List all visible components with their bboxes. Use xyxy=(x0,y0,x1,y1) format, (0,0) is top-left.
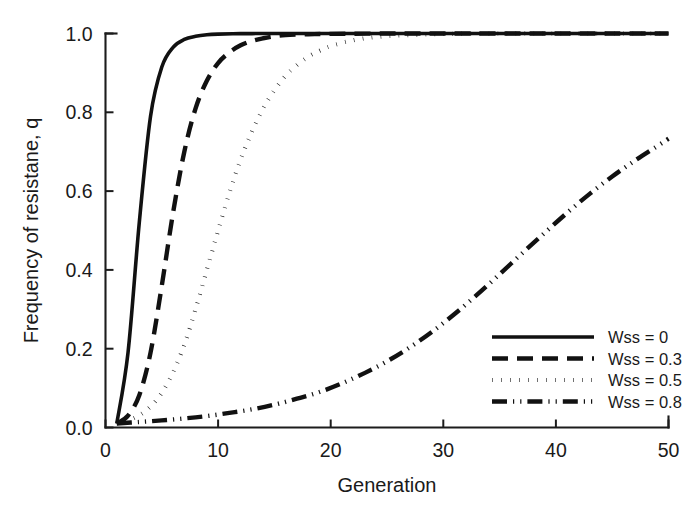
series-line-1 xyxy=(117,33,669,423)
legend-label-3: Wss = 0.8 xyxy=(608,393,682,411)
axes-group xyxy=(106,34,669,428)
series-line-0 xyxy=(117,33,669,423)
y-axis-title: Frequency of resistane, q xyxy=(20,118,42,344)
x-tick-label: 40 xyxy=(545,439,567,461)
x-axis-title: Generation xyxy=(338,474,437,496)
legend-label-1: Wss = 0.3 xyxy=(608,350,682,368)
x-axis-tick-labels: 01020304050 xyxy=(100,439,679,461)
chart-legend: Wss = 0Wss = 0.3Wss = 0.5Wss = 0.8 xyxy=(492,328,682,411)
series-line-2 xyxy=(117,33,669,423)
legend-label-2: Wss = 0.5 xyxy=(608,371,682,389)
x-tick-label: 30 xyxy=(432,439,454,461)
x-tick-label: 20 xyxy=(320,439,342,461)
plot-canvas: 0.00.20.40.60.81.0 01020304050 Generatio… xyxy=(0,0,684,505)
legend-label-0: Wss = 0 xyxy=(608,328,668,346)
data-series-group xyxy=(117,33,669,423)
chart-figure: 0.00.20.40.60.81.0 01020304050 Generatio… xyxy=(0,0,684,505)
y-tick-label: 1.0 xyxy=(65,23,92,45)
y-axis-ticks xyxy=(106,34,114,428)
y-tick-label: 0.0 xyxy=(65,417,92,439)
y-tick-label: 0.8 xyxy=(65,101,92,123)
y-tick-label: 0.4 xyxy=(65,259,92,281)
x-tick-label: 50 xyxy=(658,439,680,461)
series-line-3 xyxy=(117,139,669,424)
x-tick-label: 0 xyxy=(100,439,111,461)
x-axis-ticks xyxy=(106,420,669,428)
y-tick-label: 0.6 xyxy=(65,180,92,202)
y-axis-tick-labels: 0.00.20.40.60.81.0 xyxy=(65,23,92,439)
x-tick-label: 10 xyxy=(207,439,229,461)
y-tick-label: 0.2 xyxy=(65,338,92,360)
